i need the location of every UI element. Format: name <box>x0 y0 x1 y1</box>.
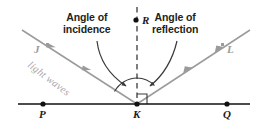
angle-of-reflection-label: Angle of reflection <box>152 12 198 36</box>
point-label-J: J <box>34 43 40 55</box>
incidence-callout-arrow <box>97 41 126 86</box>
point-label-P: P <box>39 108 46 120</box>
diagram-canvas: Angle of incidence Angle of reflection P… <box>0 0 266 133</box>
reflected-ray <box>137 30 250 104</box>
point-P-dot <box>40 101 45 106</box>
point-Q-dot <box>224 101 229 106</box>
point-label-L: L <box>227 43 234 55</box>
point-K-dot <box>134 101 139 106</box>
angle-of-incidence-line1: Angle of <box>63 12 111 24</box>
point-label-Q: Q <box>223 108 231 120</box>
reflected-ray-marker <box>221 43 224 46</box>
angle-of-reflection-line1: Angle of <box>152 12 198 24</box>
incident-ray-marker <box>46 43 49 46</box>
point-label-R: R <box>142 14 149 26</box>
incident-ray-arrowhead-2 <box>81 65 91 71</box>
angle-of-incidence-label: Angle of incidence <box>63 12 111 36</box>
point-R-dot <box>133 17 138 22</box>
angle-of-incidence-line2: incidence <box>63 24 111 36</box>
angle-of-reflection-line2: reflection <box>152 24 198 36</box>
point-label-K: K <box>133 108 140 120</box>
reflection-callout-arrow <box>150 41 177 86</box>
reflected-ray-group <box>137 30 250 104</box>
